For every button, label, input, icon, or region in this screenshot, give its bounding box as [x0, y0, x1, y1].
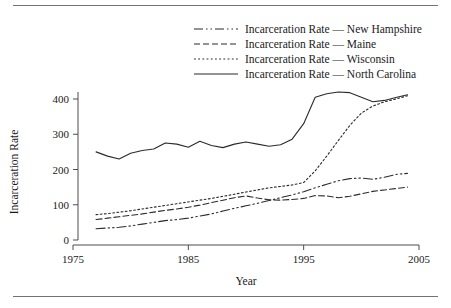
data-series-group: [96, 92, 407, 229]
x-axis-ticks: 1975198519952005: [62, 245, 431, 265]
series-line-maine: [96, 187, 407, 219]
incarceration-rate-line-chart: Incarceration Rate — New HampshireIncarc…: [0, 0, 451, 308]
chart-canvas: Incarceration Rate — New HampshireIncarc…: [0, 0, 451, 308]
x-tick-label: 1995: [293, 253, 316, 265]
series-line-north-carolina: [96, 92, 407, 159]
legend-label-north-carolina: Incarceration Rate — North Carolina: [245, 68, 416, 80]
legend-label-new-hampshire: Incarceration Rate — New Hampshire: [245, 23, 422, 36]
x-tick-label: 1975: [62, 253, 85, 265]
x-axis-title: Year: [235, 275, 256, 287]
y-tick-label: 200: [53, 164, 70, 176]
legend-label-maine: Incarceration Rate — Maine: [245, 38, 376, 50]
legend-label-wisconsin: Incarceration Rate — Wisconsin: [245, 53, 395, 65]
series-line-new-hampshire: [96, 173, 407, 228]
y-axis-title: Incarceration Rate: [8, 130, 20, 215]
x-tick-label: 2005: [408, 253, 431, 265]
chart-legend: Incarceration Rate — New HampshireIncarc…: [194, 23, 422, 80]
plot-area: 0100200300400 1975198519952005: [53, 92, 431, 265]
x-tick-label: 1985: [177, 253, 200, 265]
y-tick-label: 400: [53, 93, 70, 105]
y-tick-label: 100: [53, 199, 70, 211]
y-tick-label: 300: [53, 128, 70, 140]
y-tick-label: 0: [64, 234, 70, 246]
y-axis-ticks: 0100200300400: [53, 93, 79, 246]
